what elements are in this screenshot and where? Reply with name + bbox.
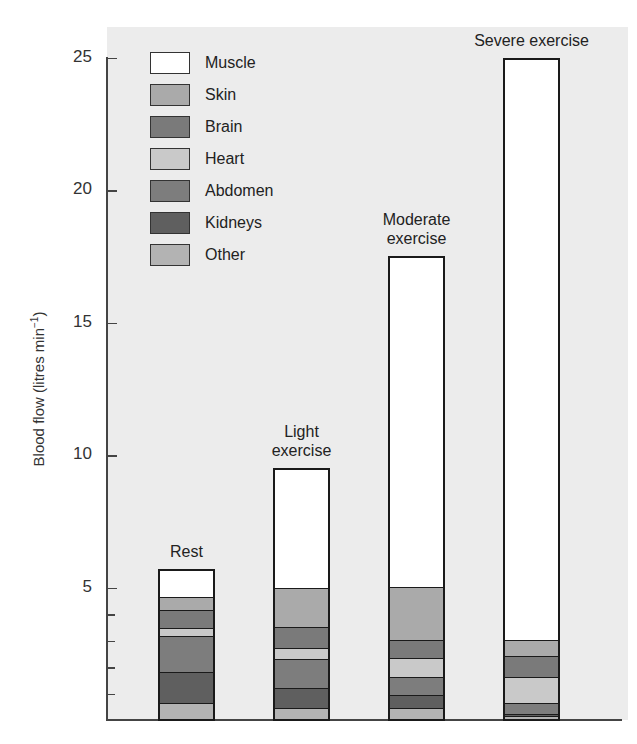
legend-item-other: Other — [150, 244, 245, 266]
segment-other — [390, 708, 443, 719]
y-axis — [106, 57, 108, 721]
legend-swatch — [150, 244, 190, 266]
segment-heart — [275, 648, 328, 658]
legend-label: Muscle — [205, 54, 256, 72]
bar-moderate-exercise — [388, 256, 445, 721]
segment-abdomen — [505, 703, 558, 714]
segment-brain — [160, 610, 213, 628]
y-tick-minor — [107, 667, 115, 669]
y-tick-label: 20 — [52, 179, 92, 199]
legend-item-muscle: Muscle — [150, 52, 256, 74]
legend-label: Other — [205, 246, 245, 264]
legend-swatch — [150, 116, 190, 138]
bar-label: Severe exercise — [442, 31, 622, 50]
segment-abdomen — [160, 636, 213, 672]
segment-other — [275, 708, 328, 718]
bar-light-exercise — [273, 468, 330, 721]
y-tick-minor — [107, 614, 115, 616]
legend-swatch — [150, 180, 190, 202]
segment-abdomen — [275, 659, 328, 688]
y-tick-major — [107, 58, 117, 60]
bar-label: Lightexercise — [242, 422, 362, 460]
legend-item-kidneys: Kidneys — [150, 212, 262, 234]
segment-skin — [390, 587, 443, 640]
y-tick-label: 5 — [52, 577, 92, 597]
legend-swatch — [150, 52, 190, 74]
legend-label: Brain — [205, 118, 242, 136]
segment-heart — [160, 628, 213, 636]
y-tick-label: 25 — [52, 47, 92, 67]
y-tick-minor — [107, 641, 115, 643]
y-tick-label: 10 — [52, 444, 92, 464]
segment-other — [160, 703, 213, 719]
segment-muscle — [275, 470, 328, 588]
legend-item-brain: Brain — [150, 116, 242, 138]
y-tick-major — [107, 455, 117, 457]
bar-rest — [158, 569, 215, 721]
segment-kidneys — [390, 695, 443, 708]
segment-skin — [275, 588, 328, 627]
segment-skin — [505, 640, 558, 656]
y-axis-label: Blood flow (litres min−1) — [29, 279, 47, 499]
segment-brain — [275, 627, 328, 648]
segment-heart — [390, 658, 443, 676]
segment-skin — [160, 597, 213, 610]
bar-severe-exercise — [503, 58, 560, 722]
segment-brain — [505, 656, 558, 677]
legend-item-abdomen: Abdomen — [150, 180, 274, 202]
y-tick-minor — [107, 694, 115, 696]
y-tick-label: 15 — [52, 312, 92, 332]
legend-swatch — [150, 212, 190, 234]
legend-item-skin: Skin — [150, 84, 236, 106]
bar-label: Rest — [127, 542, 247, 561]
legend-swatch — [150, 148, 190, 170]
segment-other — [505, 716, 558, 719]
y-tick-major — [107, 323, 117, 325]
bar-label: Moderateexercise — [357, 210, 477, 248]
segment-muscle — [505, 60, 558, 640]
y-tick-major — [107, 190, 117, 192]
segment-brain — [390, 640, 443, 658]
legend-swatch — [150, 84, 190, 106]
segment-heart — [505, 677, 558, 703]
legend-label: Heart — [205, 150, 244, 168]
segment-muscle — [160, 571, 213, 597]
legend-item-heart: Heart — [150, 148, 244, 170]
segment-kidneys — [275, 688, 328, 709]
legend-label: Kidneys — [205, 214, 262, 232]
segment-kidneys — [160, 672, 213, 703]
legend-label: Abdomen — [205, 182, 274, 200]
legend-label: Skin — [205, 86, 236, 104]
segment-abdomen — [390, 677, 443, 695]
segment-muscle — [390, 258, 443, 587]
y-tick-major — [107, 588, 117, 590]
